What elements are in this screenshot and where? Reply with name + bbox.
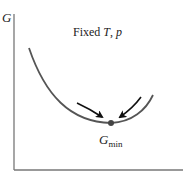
minimum-point <box>108 120 114 126</box>
condition-var-p: p <box>116 25 122 39</box>
y-axis-label: G <box>2 10 11 26</box>
minimum-label: Gmin <box>99 132 122 149</box>
gibbs-curve <box>29 48 153 123</box>
condition-prefix: Fixed <box>73 25 103 39</box>
condition-label: Fixed T, p <box>73 25 122 40</box>
gibbs-energy-diagram: G Fixed T, p Gmin <box>0 0 187 176</box>
minimum-symbol: G <box>99 132 108 147</box>
arrow-left-icon <box>77 103 102 117</box>
minimum-subscript: min <box>108 139 122 149</box>
